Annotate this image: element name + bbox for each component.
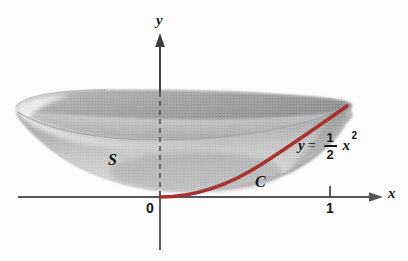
y-axis-label: y: [156, 13, 163, 28]
surface-label-s: S: [108, 152, 117, 168]
equation-exponent: 2: [352, 130, 358, 141]
x-axis-label: x: [388, 186, 396, 201]
y-axis-arrowhead: [155, 33, 165, 47]
equation-variable-term: x2: [343, 137, 351, 154]
equation-fraction: 1 2: [324, 131, 337, 161]
curve-equation-label: y = 1 2 x2: [298, 131, 350, 161]
x-tick-label-1: 1: [326, 201, 334, 215]
equation-denominator: 2: [325, 148, 334, 161]
equation-lhs: y: [298, 137, 305, 154]
math-figure: y x 0 1 S C y = 1 2 x2: [0, 0, 408, 261]
x-axis-arrowhead: [369, 192, 383, 202]
origin-label: 0: [146, 201, 154, 215]
equation-equals-sign: =: [308, 138, 316, 154]
curve-label-c: C: [255, 174, 266, 190]
equation-numerator: 1: [325, 131, 334, 144]
equation-variable: x: [343, 137, 351, 153]
